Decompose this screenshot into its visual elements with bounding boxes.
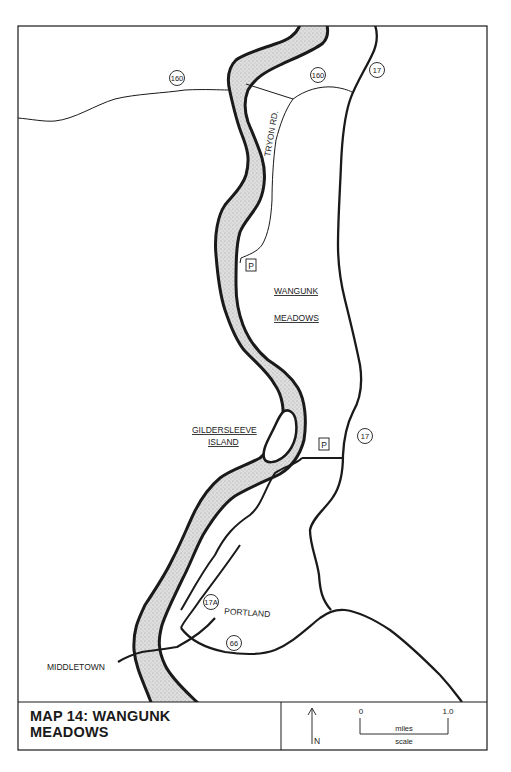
road-66 xyxy=(181,610,462,702)
parking-icon-south: P xyxy=(319,438,329,450)
shield-160-west: 160 xyxy=(170,71,185,86)
north-label: N xyxy=(314,736,320,746)
svg-text:66: 66 xyxy=(230,639,238,648)
road-160-east-b xyxy=(293,87,352,99)
label-middletown: MIDDLETOWN xyxy=(47,662,105,672)
map-title-line1: MAP 14: WANGUNK xyxy=(30,708,270,724)
label-meadows: MEADOWS xyxy=(274,313,319,323)
map-title: MAP 14: WANGUNK MEADOWS xyxy=(30,708,270,740)
label-gildersleeve: GILDERSLEEVE xyxy=(192,425,257,435)
svg-text:160: 160 xyxy=(171,74,184,83)
svg-text:160: 160 xyxy=(312,71,325,80)
road-160-west xyxy=(18,90,228,122)
label-island: ISLAND xyxy=(208,437,239,447)
river xyxy=(134,25,328,705)
scale-unit: miles xyxy=(395,724,413,733)
road-17 xyxy=(310,25,377,610)
shield-17-south: 17 xyxy=(358,429,373,444)
label-portland: PORTLAND xyxy=(224,606,271,619)
shield-66: 66 xyxy=(227,636,242,651)
map-canvas: 160 160 17 17 17A 66 P P TRYON RD. WANGU… xyxy=(0,0,511,772)
shield-17-north: 17 xyxy=(370,63,385,78)
scale-end: 1.0 xyxy=(442,707,454,716)
label-wangunk: WANGUNK xyxy=(274,286,318,296)
scale-start: 0 xyxy=(359,707,364,716)
shield-160-east: 160 xyxy=(311,68,326,83)
svg-text:P: P xyxy=(248,261,254,271)
scale-caption: scale xyxy=(395,737,413,746)
shield-17a: 17A xyxy=(204,595,219,610)
map-title-line2: MEADOWS xyxy=(30,724,270,740)
svg-text:17: 17 xyxy=(361,432,369,441)
svg-text:17A: 17A xyxy=(204,598,217,607)
road-160-east-a xyxy=(246,84,293,99)
svg-text:17: 17 xyxy=(373,66,381,75)
parking-icon-north: P xyxy=(246,259,256,271)
svg-text:P: P xyxy=(321,440,327,450)
